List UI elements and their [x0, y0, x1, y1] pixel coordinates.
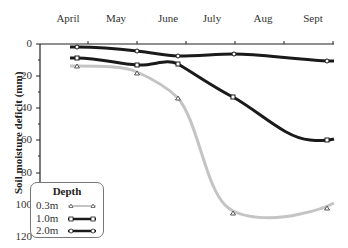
x-tick-label-sept: Sept — [303, 12, 323, 24]
x-tick-label-aug: Aug — [254, 12, 273, 24]
triangle-marker-icon — [69, 204, 73, 208]
triangle-marker-icon — [91, 204, 95, 208]
legend: Depth 0.3m 1.0m 2.0m — [30, 182, 104, 238]
circle-marker-icon — [91, 229, 95, 233]
x-tick-label-april: April — [56, 12, 79, 24]
series-0.3m-line — [70, 66, 334, 218]
circle-marker-icon — [135, 49, 139, 53]
legend-title: Depth — [31, 185, 103, 197]
square-marker-icon — [69, 217, 73, 221]
y-tick-label-120: 120 — [4, 230, 32, 242]
legend-label: 2.0m — [36, 224, 58, 236]
circle-marker-icon — [325, 59, 329, 63]
series-0.3m-markers — [75, 64, 330, 215]
square-marker-icon — [75, 56, 79, 60]
legend-item-0.3m: 0.3m — [36, 199, 58, 211]
legend-swatch-2.0m — [67, 226, 97, 236]
x-tick-label-july: July — [203, 12, 221, 24]
series-1.0m-line — [70, 58, 334, 141]
series-1.0m-markers — [75, 56, 329, 142]
y-axis-label: Soil moisture deficit (mm) — [12, 74, 24, 194]
series-2.0m-line — [70, 47, 334, 61]
square-marker-icon — [135, 63, 139, 67]
circle-marker-icon — [75, 45, 79, 49]
circle-marker-icon — [69, 229, 73, 233]
square-marker-icon — [231, 95, 235, 99]
y-tick-label-0: 0 — [4, 37, 32, 49]
legend-label: 1.0m — [36, 212, 58, 224]
y-tick-label-100: 100 — [4, 198, 32, 210]
legend-swatch-0.3m — [67, 201, 97, 211]
square-marker-icon — [325, 138, 329, 142]
legend-item-2.0m: 2.0m — [36, 224, 58, 236]
legend-item-1.0m: 1.0m — [36, 212, 58, 224]
soil-moisture-chart: April May June July Aug Sept 0 20 40 60 … — [0, 0, 348, 248]
x-tick-label-may: May — [106, 12, 126, 24]
square-marker-icon — [176, 62, 180, 66]
legend-label: 0.3m — [36, 199, 58, 211]
circle-marker-icon — [232, 52, 236, 56]
legend-swatch-1.0m — [67, 214, 97, 224]
square-marker-icon — [91, 217, 95, 221]
x-tick-label-june: June — [158, 12, 178, 24]
circle-marker-icon — [176, 54, 180, 58]
